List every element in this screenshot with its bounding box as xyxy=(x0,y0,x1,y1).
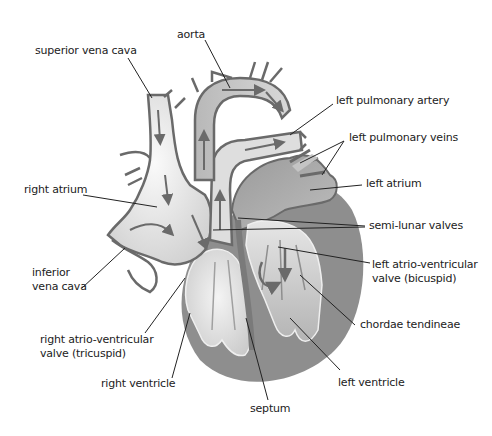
label-superior-vena-cava: superior vena cava xyxy=(35,44,137,58)
label-right-atrium: right atrium xyxy=(24,183,87,197)
heart-illustration xyxy=(0,0,492,436)
label-left-av-valve-line1: left atrio-ventricular xyxy=(372,258,478,272)
label-right-av-valve-line2: valve (tricuspid) xyxy=(40,347,126,361)
label-septum: septum xyxy=(250,402,290,416)
label-left-av-valve-line2: valve (bicuspid) xyxy=(372,272,456,286)
heart-diagram: superior vena cava aorta left pulmonary … xyxy=(0,0,492,436)
label-semi-lunar-valves: semi-lunar valves xyxy=(369,219,463,233)
label-inferior-vena-cava-line1: inferior xyxy=(32,266,70,280)
label-chordae-tendineae: chordae tendineae xyxy=(360,318,460,332)
label-left-pulmonary-artery: left pulmonary artery xyxy=(336,94,449,108)
label-left-atrium: left atrium xyxy=(366,177,421,191)
label-right-av-valve-line1: right atrio-ventricular xyxy=(40,333,153,347)
label-aorta: aorta xyxy=(177,28,205,42)
label-left-pulmonary-veins: left pulmonary veins xyxy=(349,131,458,145)
label-right-ventricle: right ventricle xyxy=(101,377,175,391)
label-inferior-vena-cava-line2: vena cava xyxy=(32,280,87,294)
label-left-ventricle: left ventricle xyxy=(338,376,405,390)
